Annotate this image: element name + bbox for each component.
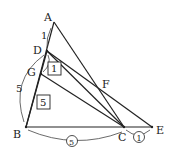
geometry-diagram: A D G B C E F 1 5 1 5 5 1 [0, 0, 177, 154]
point-label-A: A [43, 11, 53, 24]
boxed-label-DG: 1 [51, 63, 57, 74]
boxed-label-GB: 5 [40, 97, 46, 108]
point-label-C: C [118, 131, 126, 144]
point-label-E: E [156, 124, 164, 137]
ratio-label-DB: 5 [16, 83, 22, 94]
segment-GC [41, 74, 124, 127]
ratio-label-AD: 1 [41, 30, 47, 41]
point-label-G: G [27, 66, 36, 79]
circled-label-BC: 5 [69, 138, 74, 147]
diagram-canvas: A D G B C E F 1 5 1 5 5 1 [0, 0, 177, 154]
point-label-D: D [33, 44, 42, 57]
point-label-B: B [13, 128, 21, 141]
circled-label-CE: 1 [137, 134, 142, 143]
segment-DE [47, 51, 152, 127]
segment-AC [54, 22, 124, 127]
point-label-F: F [102, 78, 110, 91]
segment-BD [26, 51, 47, 127]
